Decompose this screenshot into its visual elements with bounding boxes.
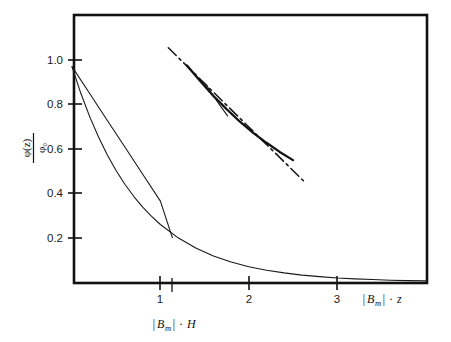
y-axis-label-denominator: φ₀: [35, 143, 47, 153]
x-axis-label-base: B: [367, 292, 375, 306]
series-overlay-thin-branch: [206, 85, 227, 116]
annotation-subscript: m: [165, 323, 171, 333]
x-tick-label-2: 3: [334, 293, 340, 305]
annotation-bar-left: |: [152, 317, 155, 331]
y-axis-label-numerator: φ(z): [20, 138, 33, 157]
x-tick-label-0: 1: [157, 293, 163, 305]
series-linear-approximation: [72, 67, 172, 238]
y-tick-label-4: 0.2: [47, 232, 63, 244]
x-axis-label-subscript: m: [375, 298, 381, 308]
annotation-bar-right: |: [172, 317, 175, 331]
x-axis-label: | B m | · z: [362, 292, 402, 308]
plot-frame: [74, 15, 427, 283]
y-tick-label-0: 1.0: [47, 54, 63, 66]
annotation-label-H: | B m | · H: [152, 317, 197, 333]
series-exponential-decay: [72, 67, 426, 281]
x-tick-label-1: 2: [246, 293, 252, 305]
figure-container: 1.0 0.8 0.6 0.4 0.2 φ(z) φ₀ 1 2 3 |: [0, 0, 451, 342]
series-overlay-solid-curve: [187, 66, 293, 161]
x-axis-label-bar-left: |: [362, 292, 365, 306]
y-tick-label-1: 0.8: [47, 98, 63, 110]
y-axis-label: φ(z) φ₀: [20, 133, 47, 163]
annotation-dot: ·: [179, 317, 183, 331]
y-tick-label-2: 0.6: [47, 143, 63, 155]
annotation-variable: H: [186, 317, 197, 331]
annotation-base: B: [157, 317, 165, 331]
x-axis-label-bar-right: |: [382, 292, 385, 306]
y-tick-label-3: 0.4: [47, 187, 64, 199]
x-axis-label-dot: ·: [389, 292, 393, 306]
data-series-layer: [72, 48, 426, 281]
chart-svg: 1.0 0.8 0.6 0.4 0.2 φ(z) φ₀ 1 2 3 |: [0, 0, 451, 342]
x-axis-label-variable: z: [396, 292, 402, 306]
x-axis-tick-labels: 1 2 3: [157, 293, 340, 305]
y-axis-tick-labels: 1.0 0.8 0.6 0.4 0.2: [47, 54, 64, 244]
